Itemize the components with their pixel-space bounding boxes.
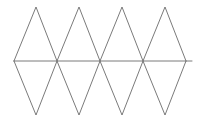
lower-zigzag-path — [14, 61, 186, 115]
figure-canvas — [0, 0, 205, 122]
upper-zigzag-path — [14, 7, 186, 61]
triangle-strip-diagram — [0, 0, 205, 122]
